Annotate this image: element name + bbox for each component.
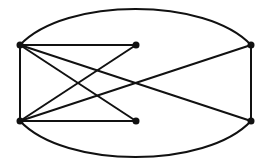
node-E <box>133 118 140 125</box>
edge-D-F <box>20 121 251 157</box>
node-F <box>248 118 255 125</box>
edges <box>20 9 251 157</box>
node-B <box>133 42 140 49</box>
node-C <box>248 42 255 49</box>
node-D <box>17 118 24 125</box>
node-A <box>17 42 24 49</box>
edge-A-C <box>20 9 251 45</box>
graph-diagram <box>0 0 266 164</box>
